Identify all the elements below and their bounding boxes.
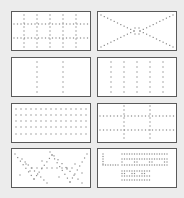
pattern-tile-dot-rows[interactable] bbox=[11, 103, 91, 143]
pattern-palette bbox=[0, 0, 184, 198]
pattern-tile-two-verticals[interactable] bbox=[11, 57, 91, 97]
text-dots-pattern-icon bbox=[98, 149, 176, 187]
dot-rows-pattern-icon bbox=[12, 104, 90, 142]
vertical-lines-pattern-icon bbox=[12, 58, 90, 96]
x-pattern-icon bbox=[98, 12, 176, 50]
zigzag-pattern-icon bbox=[12, 149, 90, 187]
pattern-tile-five-verticals[interactable] bbox=[97, 57, 177, 97]
pattern-tile-grid-5x2[interactable] bbox=[11, 11, 91, 51]
pattern-tile-zigzag[interactable] bbox=[11, 148, 91, 188]
grid-pattern-icon bbox=[12, 12, 90, 50]
pattern-tile-cross-grid[interactable] bbox=[97, 103, 177, 143]
cross-grid-pattern-icon bbox=[98, 104, 176, 142]
pattern-tile-text-dots[interactable] bbox=[97, 148, 177, 188]
vertical-lines-pattern-icon bbox=[98, 58, 176, 96]
pattern-tile-diagonal-x[interactable] bbox=[97, 11, 177, 51]
